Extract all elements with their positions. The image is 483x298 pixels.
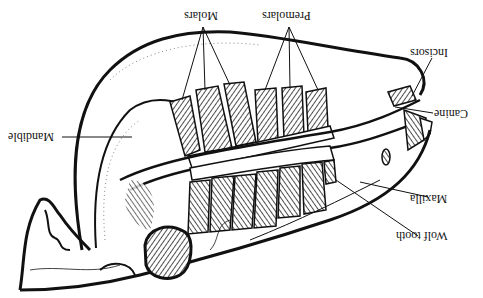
label-canine: Canine — [434, 108, 468, 120]
label-mandible: Mandible — [8, 131, 54, 143]
label-maxilla: Maxilla — [410, 193, 447, 205]
skull-illustration — [0, 0, 483, 298]
incisor-group — [382, 86, 432, 165]
label-premolars: Premolars — [262, 10, 311, 22]
label-wolf-tooth: Wolf tooth — [396, 230, 447, 242]
label-incisors: Incisors — [410, 47, 448, 59]
skull-rear — [20, 180, 191, 290]
orbit — [145, 227, 191, 278]
label-molars: Molars — [184, 10, 218, 22]
skull-diagram: Molars Premolars Incisors Canine Mandibl… — [0, 0, 483, 298]
